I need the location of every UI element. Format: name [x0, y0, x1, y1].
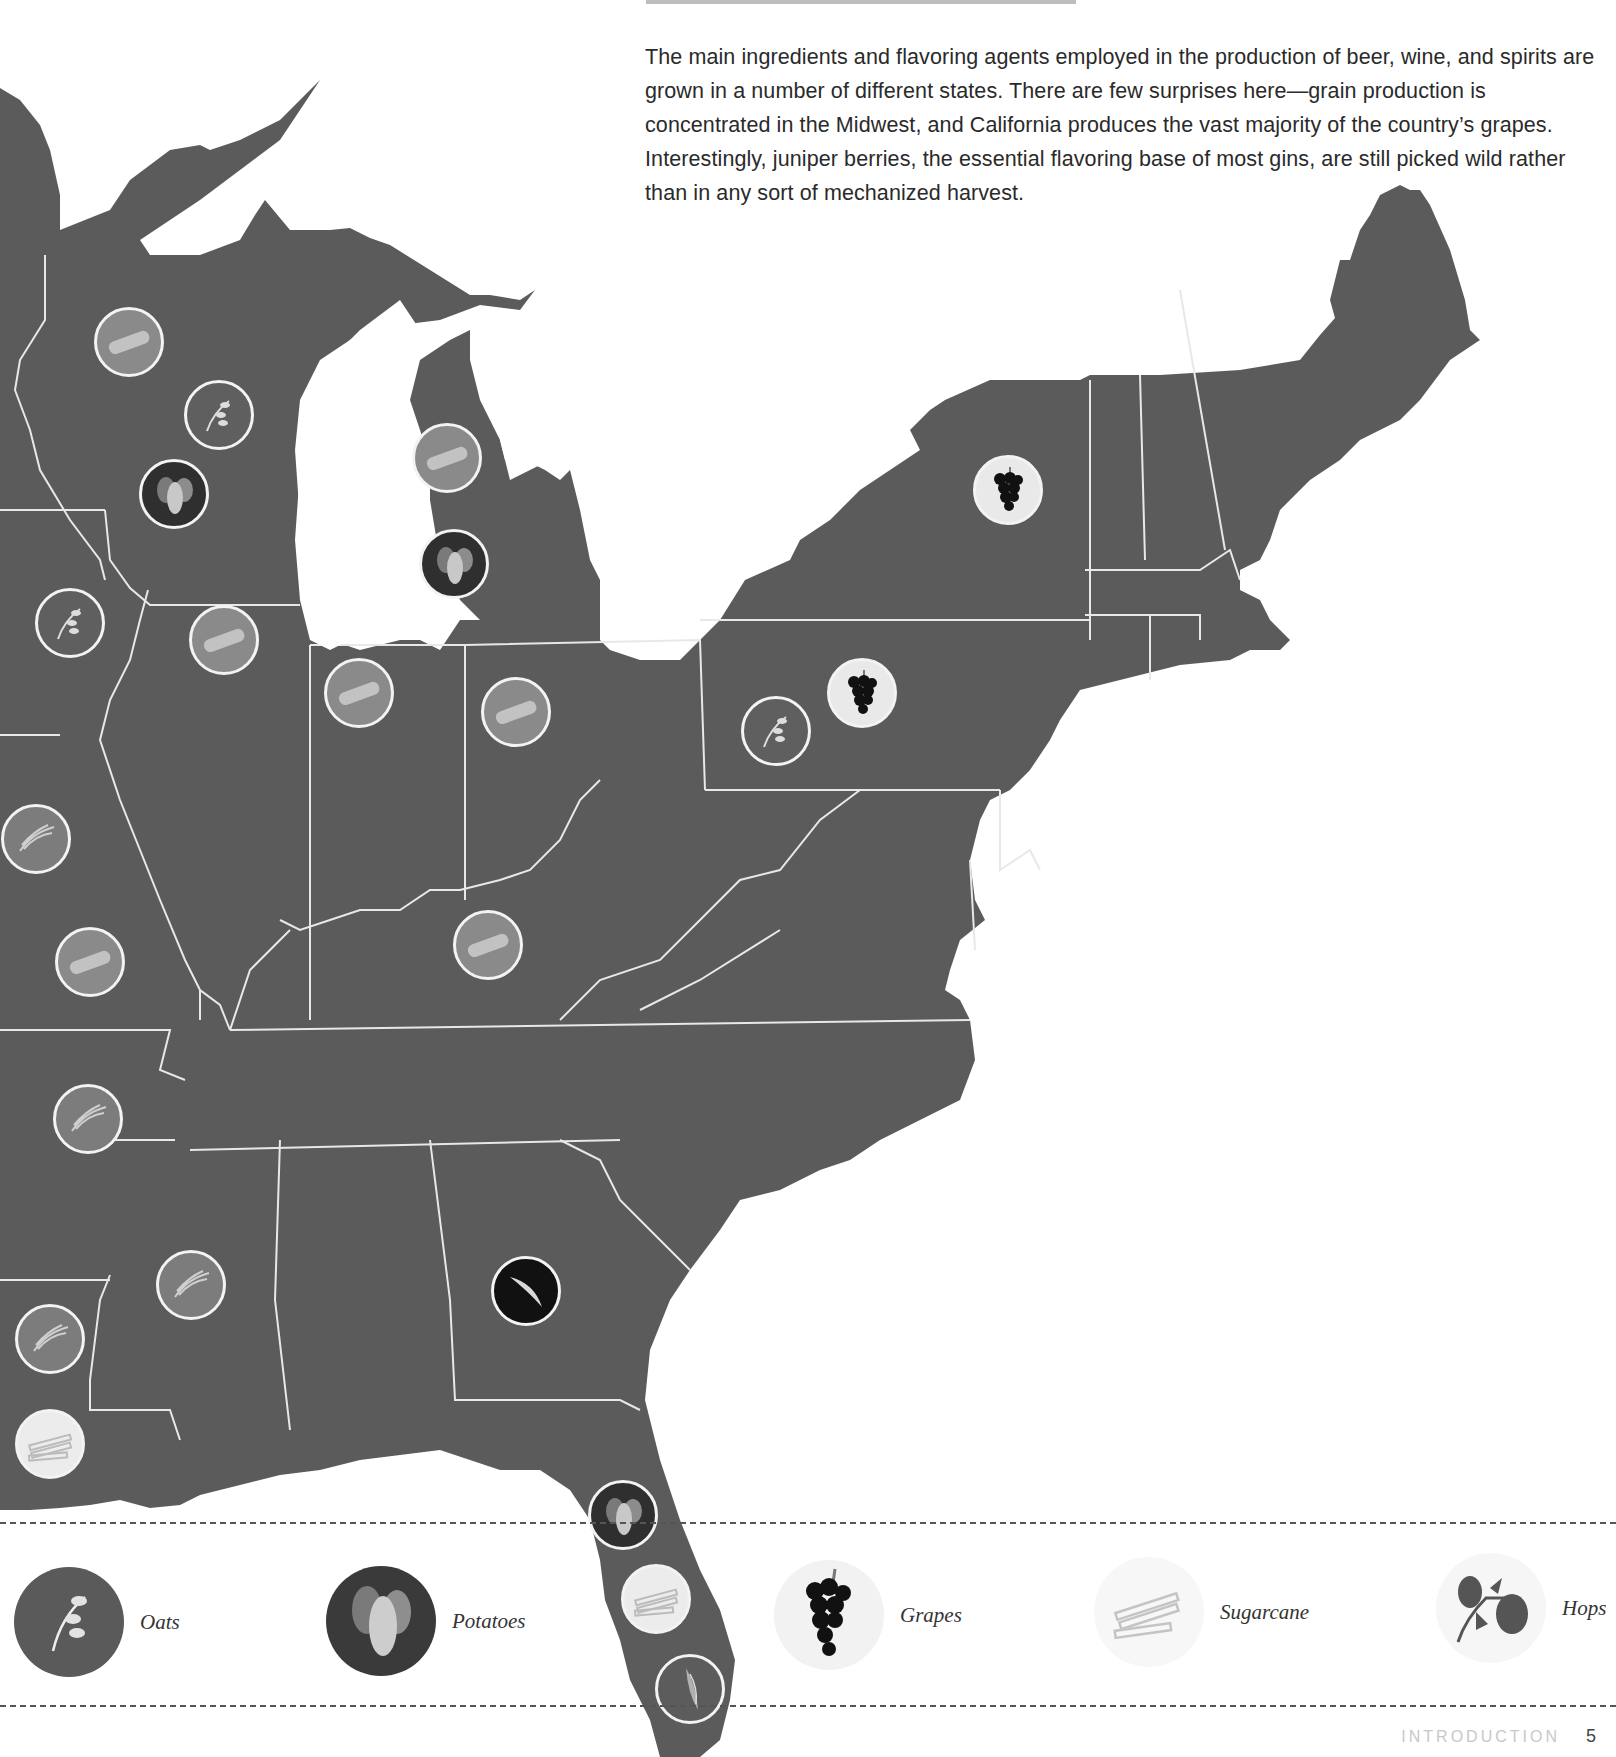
rice-icon	[14, 821, 58, 857]
grapes-icon	[842, 668, 882, 718]
marker-mo-corn[interactable]	[55, 927, 125, 997]
legend-label: Sugarcane	[1220, 1600, 1309, 1625]
corn-icon	[104, 327, 154, 357]
legend-top-divider	[0, 1522, 1616, 1524]
marker-ia-oats[interactable]	[35, 588, 105, 658]
sugarcane-icon	[25, 1426, 75, 1462]
corn-icon	[491, 697, 541, 727]
oats-icon	[50, 603, 90, 643]
grapes-icon	[774, 1560, 884, 1670]
corn-icon	[463, 930, 513, 960]
marker-mo-rice[interactable]	[1, 804, 71, 874]
juniper-icon	[504, 1269, 548, 1313]
legend-item-grapes: Grapes	[774, 1560, 962, 1670]
oats-icon	[199, 395, 239, 435]
marker-wi-corn[interactable]	[94, 307, 164, 377]
marker-oh-corn[interactable]	[481, 677, 551, 747]
marker-la-sugarcane[interactable]	[15, 1409, 85, 1479]
marker-ny-grapes[interactable]	[973, 455, 1043, 525]
rice-icon	[66, 1101, 110, 1137]
land-mass	[0, 80, 1480, 1757]
grapes-icon	[988, 465, 1028, 515]
legend-item-potatoes: Potatoes	[326, 1566, 526, 1676]
legend-label: Oats	[140, 1610, 180, 1635]
marker-ms-rice[interactable]	[156, 1250, 226, 1320]
corn-icon	[422, 443, 472, 473]
marker-la-rice[interactable]	[15, 1304, 85, 1374]
marker-ar-rice[interactable]	[53, 1084, 123, 1154]
legend-label: Grapes	[900, 1603, 962, 1628]
marker-wi-oats[interactable]	[184, 380, 254, 450]
oats-icon	[756, 711, 796, 751]
corn-icon	[65, 947, 115, 977]
marker-fl-wheat[interactable]	[655, 1654, 725, 1724]
marker-fl-potatoes[interactable]	[588, 1480, 658, 1550]
page-number: 5	[1586, 1726, 1596, 1746]
marker-il-corn[interactable]	[189, 605, 259, 675]
hops-icon	[1436, 1553, 1546, 1663]
sugarcane-icon	[631, 1581, 681, 1617]
marker-ky-corn[interactable]	[453, 910, 523, 980]
marker-in-corn[interactable]	[324, 658, 394, 728]
legend-label: Hops	[1562, 1596, 1606, 1621]
potatoes-icon	[430, 540, 478, 588]
marker-pa-oats[interactable]	[741, 696, 811, 766]
legend-item-oats: Oats	[14, 1567, 180, 1677]
legend-bottom-divider	[0, 1705, 1616, 1707]
marker-pa-grapes[interactable]	[827, 658, 897, 728]
marker-mi-corn[interactable]	[412, 423, 482, 493]
corn-icon	[199, 625, 249, 655]
rice-icon	[169, 1267, 213, 1303]
marker-fl-sugarcane[interactable]	[621, 1564, 691, 1634]
marker-wi-potatoes[interactable]	[139, 459, 209, 529]
potatoes-icon	[150, 470, 198, 518]
sugarcane-icon	[1094, 1557, 1204, 1667]
legend-item-sugarcane: Sugarcane	[1094, 1557, 1309, 1667]
legend-label: Potatoes	[452, 1609, 526, 1634]
potatoes-icon	[326, 1566, 436, 1676]
eastern-us-map	[0, 0, 1616, 1757]
marker-mi-potatoes[interactable]	[419, 529, 489, 599]
rice-icon	[28, 1321, 72, 1357]
legend-item-hops: Hops	[1436, 1553, 1606, 1663]
section-name: INTRODUCTION	[1401, 1728, 1560, 1745]
marker-ga-juniper[interactable]	[491, 1256, 561, 1326]
potatoes-icon	[599, 1491, 647, 1539]
oats-icon	[14, 1567, 124, 1677]
corn-icon	[334, 678, 384, 708]
page-footer: INTRODUCTION5	[1401, 1726, 1596, 1747]
